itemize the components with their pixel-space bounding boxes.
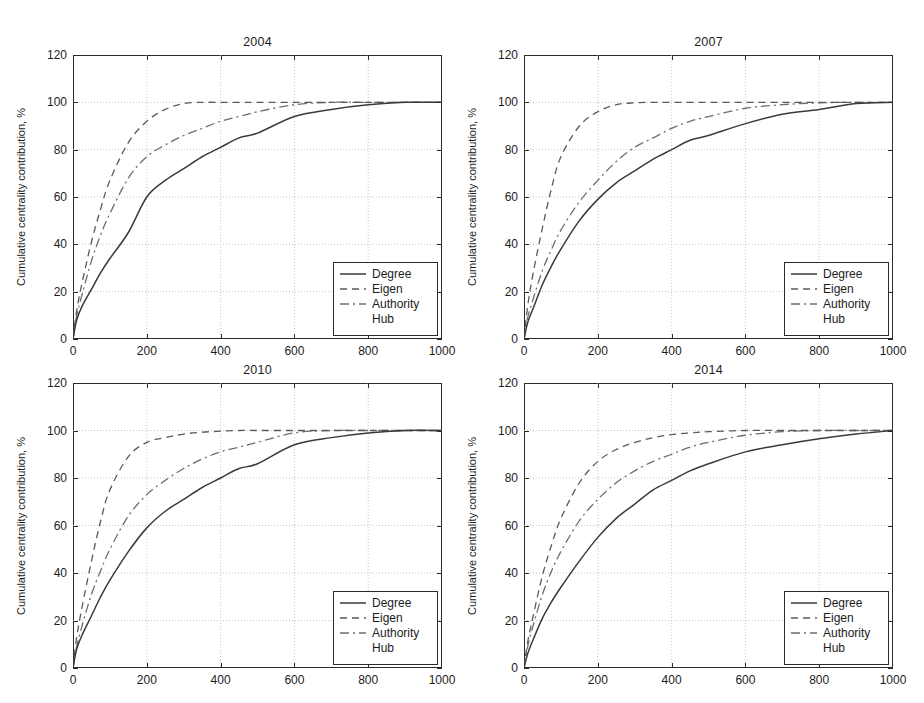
y-tick-label: 80 bbox=[54, 143, 67, 157]
y-tick-label: 120 bbox=[498, 48, 518, 62]
legend-line-sample-degree bbox=[338, 597, 368, 609]
y-tick-label: 20 bbox=[505, 614, 518, 628]
y-tickmark-right bbox=[437, 339, 442, 340]
x-tickmark-top bbox=[147, 55, 148, 60]
y-tickmark bbox=[524, 668, 529, 669]
x-tickmark-top bbox=[221, 383, 222, 388]
legend-line-sample-eigen bbox=[789, 612, 819, 624]
legend[interactable]: DegreeEigenAuthorityHub bbox=[784, 591, 889, 665]
legend-label: Authority bbox=[823, 627, 870, 639]
legend-item-eigen[interactable]: Eigen bbox=[338, 281, 432, 296]
x-tick-label: 0 bbox=[521, 344, 528, 358]
legend-label: Degree bbox=[372, 268, 411, 280]
x-tick-label: 1000 bbox=[429, 344, 456, 358]
y-tick-label: 80 bbox=[505, 143, 518, 157]
y-tickmark-right bbox=[888, 573, 893, 574]
y-tick-label: 60 bbox=[505, 190, 518, 204]
y-tickmark-right bbox=[437, 526, 442, 527]
legend-line-sample-eigen bbox=[789, 283, 819, 295]
legend[interactable]: DegreeEigenAuthorityHub bbox=[333, 591, 438, 665]
x-tick-label: 1000 bbox=[429, 673, 456, 687]
y-axis-label: Cumulative centrality contribution, % bbox=[466, 437, 478, 615]
y-tick-label: 0 bbox=[511, 332, 518, 346]
x-tickmark bbox=[672, 334, 673, 339]
x-tickmark-top bbox=[598, 383, 599, 388]
legend-item-hub[interactable]: Hub bbox=[789, 640, 883, 655]
legend-label: Hub bbox=[823, 642, 845, 654]
x-tickmark-top bbox=[672, 383, 673, 388]
legend-line-sample-hub bbox=[789, 313, 819, 325]
y-tickmark bbox=[524, 339, 529, 340]
y-tickmark bbox=[524, 526, 529, 527]
chart-panel-2007: 2007Cumulative centrality contribution, … bbox=[524, 55, 893, 339]
x-tick-label: 800 bbox=[809, 673, 829, 687]
y-tickmark bbox=[73, 339, 78, 340]
legend-item-degree[interactable]: Degree bbox=[338, 595, 432, 610]
y-tickmark bbox=[73, 573, 78, 574]
x-tickmark-top bbox=[819, 383, 820, 388]
legend-line-sample-hub bbox=[789, 642, 819, 654]
legend-label: Eigen bbox=[372, 283, 403, 295]
y-tickmark-right bbox=[437, 478, 442, 479]
y-tick-label: 100 bbox=[47, 95, 67, 109]
x-tick-label: 200 bbox=[137, 344, 157, 358]
chart-panel-2010: 2010Cumulative centrality contribution, … bbox=[73, 383, 442, 668]
y-tickmark bbox=[73, 244, 78, 245]
legend-line-sample-authority bbox=[338, 298, 368, 310]
legend-line-sample-hub bbox=[338, 642, 368, 654]
legend-item-authority[interactable]: Authority bbox=[789, 296, 883, 311]
y-tick-label: 80 bbox=[54, 471, 67, 485]
x-tickmark-top bbox=[672, 55, 673, 60]
y-tick-label: 120 bbox=[498, 376, 518, 390]
legend-label: Degree bbox=[823, 268, 862, 280]
y-tickmark-right bbox=[437, 431, 442, 432]
legend-item-authority[interactable]: Authority bbox=[789, 625, 883, 640]
y-tick-label: 0 bbox=[511, 661, 518, 675]
x-tick-label: 0 bbox=[521, 673, 528, 687]
y-tickmark-right bbox=[437, 244, 442, 245]
x-tick-label: 200 bbox=[588, 344, 608, 358]
legend-line-sample-hub bbox=[338, 313, 368, 325]
legend-label: Degree bbox=[372, 597, 411, 609]
y-axis-label: Cumulative centrality contribution, % bbox=[15, 437, 27, 615]
x-tickmark bbox=[294, 663, 295, 668]
legend-item-degree[interactable]: Degree bbox=[338, 266, 432, 281]
y-tickmark bbox=[524, 150, 529, 151]
x-tickmark-top bbox=[745, 55, 746, 60]
x-tick-label: 800 bbox=[809, 344, 829, 358]
legend-item-hub[interactable]: Hub bbox=[338, 640, 432, 655]
legend-item-authority[interactable]: Authority bbox=[338, 296, 432, 311]
legend-line-sample-authority bbox=[789, 627, 819, 639]
x-tickmark-top bbox=[294, 55, 295, 60]
legend-item-degree[interactable]: Degree bbox=[789, 266, 883, 281]
legend[interactable]: DegreeEigenAuthorityHub bbox=[784, 262, 889, 336]
legend-item-authority[interactable]: Authority bbox=[338, 625, 432, 640]
y-tick-label: 100 bbox=[47, 424, 67, 438]
legend-label: Hub bbox=[823, 313, 845, 325]
x-tickmark bbox=[598, 334, 599, 339]
x-tickmark-top bbox=[294, 383, 295, 388]
legend-item-eigen[interactable]: Eigen bbox=[789, 610, 883, 625]
legend-item-hub[interactable]: Hub bbox=[338, 311, 432, 326]
x-tick-label: 200 bbox=[137, 673, 157, 687]
legend-item-eigen[interactable]: Eigen bbox=[789, 281, 883, 296]
x-tick-label: 400 bbox=[211, 344, 231, 358]
legend-item-degree[interactable]: Degree bbox=[789, 595, 883, 610]
y-tickmark bbox=[73, 621, 78, 622]
x-tickmark-top bbox=[221, 55, 222, 60]
legend[interactable]: DegreeEigenAuthorityHub bbox=[333, 262, 438, 336]
legend-label: Authority bbox=[372, 627, 419, 639]
chart-panel-2004: 2004Cumulative centrality contribution, … bbox=[73, 55, 442, 339]
y-tick-label: 40 bbox=[505, 237, 518, 251]
y-tickmark bbox=[524, 431, 529, 432]
legend-item-eigen[interactable]: Eigen bbox=[338, 610, 432, 625]
legend-label: Hub bbox=[372, 642, 394, 654]
y-tickmark-right bbox=[437, 102, 442, 103]
y-tick-label: 100 bbox=[498, 95, 518, 109]
y-tickmark-right bbox=[888, 668, 893, 669]
legend-item-hub[interactable]: Hub bbox=[789, 311, 883, 326]
y-tick-label: 0 bbox=[60, 332, 67, 346]
y-tickmark-right bbox=[888, 150, 893, 151]
y-tickmark bbox=[524, 292, 529, 293]
x-tickmark bbox=[745, 334, 746, 339]
